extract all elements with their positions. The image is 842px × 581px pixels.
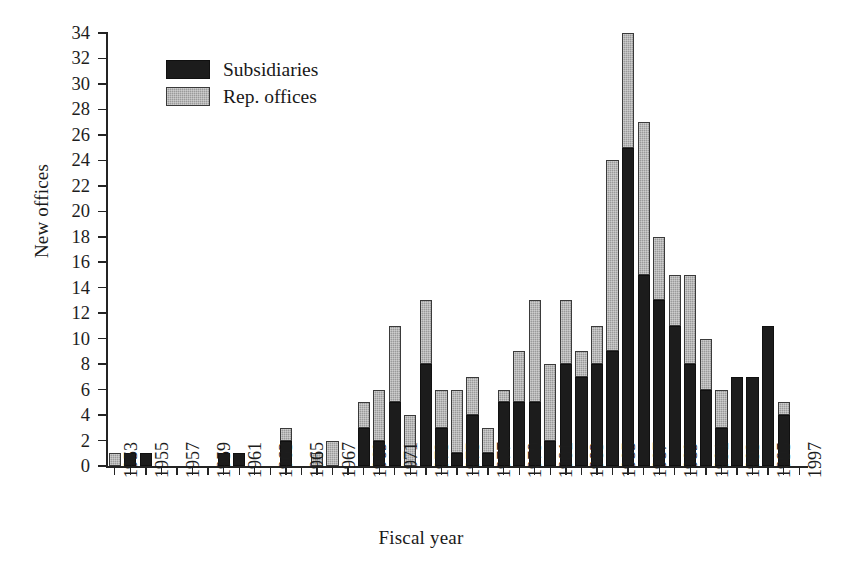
bar-segment-rep-offices [715, 390, 727, 428]
y-axis-tick-label: 8 [44, 355, 90, 374]
y-axis-tick-labels: 0246810121416182022242628303234 [40, 0, 90, 520]
y-axis-tick [98, 440, 107, 442]
y-axis-tick-label: 0 [44, 457, 90, 476]
y-axis-tick [98, 134, 107, 136]
bar-segment-rep-offices [498, 390, 510, 403]
figure-container: New offices 0246810121416182022242628303… [0, 0, 842, 581]
bar-1977 [482, 428, 494, 466]
x-axis-tick [441, 468, 442, 475]
bar-segment-rep-offices [358, 402, 370, 427]
x-axis-tick [721, 468, 722, 475]
x-axis-title: Fiscal year [0, 527, 842, 549]
y-axis-tick [98, 32, 107, 34]
y-axis-tick-label: 28 [44, 100, 90, 119]
x-axis-tick [223, 468, 224, 475]
x-axis-tick [363, 468, 364, 475]
x-axis-tick [565, 468, 566, 475]
bar-1990 [684, 275, 696, 466]
bar-segment-rep-offices [513, 351, 525, 402]
x-axis-tick [425, 468, 426, 475]
x-axis-tick [192, 468, 193, 475]
x-axis-tick [161, 468, 162, 475]
y-axis-tick-label: 26 [44, 126, 90, 145]
bar-segment-subsidiaries [669, 326, 681, 466]
bar-segment-subsidiaries [513, 402, 525, 466]
bar-segment-subsidiaries [575, 377, 587, 466]
bar-segment-subsidiaries [420, 364, 432, 466]
y-axis-tick-label: 4 [44, 406, 90, 425]
bar-segment-rep-offices [591, 326, 603, 364]
bar-segment-rep-offices [420, 300, 432, 364]
bar-1989 [669, 275, 681, 466]
bar-segment-rep-offices [326, 441, 338, 466]
bar-segment-rep-offices [669, 275, 681, 326]
y-axis-tick [98, 236, 107, 238]
bar-segment-rep-offices [389, 326, 401, 402]
bar-1969 [358, 402, 370, 466]
bar-segment-subsidiaries [544, 441, 556, 466]
x-axis-tick [487, 468, 488, 475]
bar-1995 [762, 326, 774, 466]
x-axis-tick [301, 468, 302, 475]
legend-swatch-subsidiaries [166, 60, 210, 79]
y-axis-tick-label: 12 [44, 304, 90, 323]
bar-segment-rep-offices [684, 275, 696, 364]
y-axis-tick [98, 211, 107, 213]
x-axis-tick [643, 468, 644, 475]
bar-segment-rep-offices [529, 300, 541, 402]
x-axis-tick [316, 468, 317, 475]
x-axis-tick [285, 468, 286, 475]
bar-1981 [544, 364, 556, 466]
legend-item: Rep. offices [166, 83, 406, 110]
bar-segment-rep-offices [466, 377, 478, 415]
bar-segment-subsidiaries [451, 453, 463, 466]
bar-1987 [638, 122, 650, 466]
x-axis-tick [332, 468, 333, 475]
x-axis-tick [799, 468, 800, 475]
y-axis-tick [98, 109, 107, 111]
bar-1986 [622, 33, 634, 466]
y-axis-tick-label: 22 [44, 177, 90, 196]
bar-segment-rep-offices [622, 33, 634, 148]
bar-1955 [140, 453, 152, 466]
bar-segment-subsidiaries [233, 453, 245, 466]
legend-label: Rep. offices [223, 86, 317, 108]
bar-1993 [731, 377, 743, 466]
y-axis-tick [98, 287, 107, 289]
y-axis-tick [98, 414, 107, 416]
x-axis-tick [130, 468, 131, 475]
bar-1991 [700, 339, 712, 466]
bar-segment-subsidiaries [389, 402, 401, 466]
bar-segment-rep-offices [451, 390, 463, 454]
x-axis-tick [752, 468, 753, 475]
x-axis-tick [690, 468, 691, 475]
legend-label: Subsidiaries [223, 59, 318, 81]
y-axis-tick-label: 30 [44, 75, 90, 94]
chart-legend: SubsidiariesRep. offices [166, 56, 406, 110]
bar-segment-rep-offices [560, 300, 572, 364]
x-axis-tick [394, 468, 395, 475]
x-axis-tick [534, 468, 535, 475]
x-axis-tick [503, 468, 504, 475]
bar-1961 [233, 453, 245, 466]
bar-segment-rep-offices [373, 390, 385, 441]
bar-segment-subsidiaries [482, 453, 494, 466]
x-axis-tick [254, 468, 255, 475]
y-axis-tick [98, 83, 107, 85]
x-axis-tick [596, 468, 597, 475]
y-axis-tick-label: 2 [44, 432, 90, 451]
x-axis-tick [550, 468, 551, 475]
bar-1971 [389, 326, 401, 466]
legend-swatch-rep-offices [166, 87, 210, 106]
bar-segment-rep-offices [575, 351, 587, 376]
y-axis-tick-label: 10 [44, 330, 90, 349]
y-axis-tick [98, 160, 107, 162]
y-axis-tick [98, 338, 107, 340]
bar-segment-subsidiaries [762, 326, 774, 466]
y-axis-tick-label: 32 [44, 49, 90, 68]
bar-1973 [420, 300, 432, 466]
y-axis-tick [98, 261, 107, 263]
y-axis-tick [98, 363, 107, 365]
y-axis-tick-label: 18 [44, 228, 90, 247]
bar-1983 [575, 351, 587, 466]
